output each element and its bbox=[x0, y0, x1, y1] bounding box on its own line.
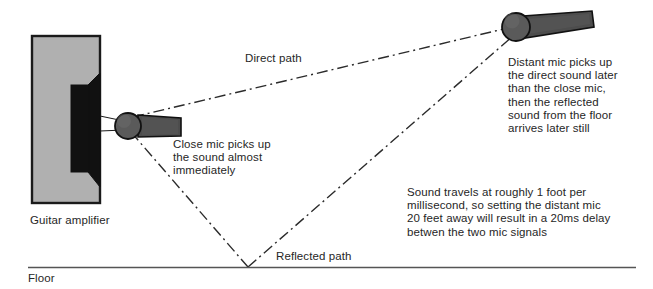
distant-microphone bbox=[502, 11, 594, 41]
speaker-cone-shape bbox=[88, 73, 100, 187]
direct-path-label: Direct path bbox=[245, 52, 302, 65]
sound-speed-annotation: Sound travels at roughly 1 foot per mill… bbox=[407, 186, 610, 239]
guitar-amplifier-cabinet bbox=[32, 36, 100, 203]
reflected-path-label: Reflected path bbox=[276, 250, 352, 263]
direct-path-line bbox=[133, 27, 512, 117]
guitar-amplifier-label: Guitar amplifier bbox=[30, 214, 110, 227]
close-mic-body-highlight bbox=[142, 117, 178, 135]
diagram-canvas bbox=[0, 0, 653, 289]
close-mic-head-highlight bbox=[117, 114, 131, 128]
sound-path-diagram: Direct path Reflected path Floor Guitar … bbox=[0, 0, 653, 289]
close-mic-annotation: Close mic picks up the sound almost imme… bbox=[173, 138, 271, 178]
floor-label: Floor bbox=[28, 272, 55, 285]
close-microphone bbox=[115, 113, 181, 139]
distant-mic-annotation: Distant mic picks up the direct sound la… bbox=[508, 56, 618, 135]
distant-mic-head-highlight bbox=[505, 14, 520, 29]
speaker-magnet-shape bbox=[71, 85, 89, 172]
